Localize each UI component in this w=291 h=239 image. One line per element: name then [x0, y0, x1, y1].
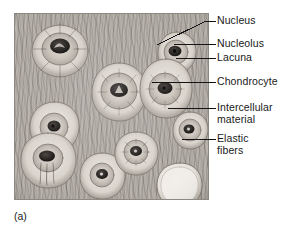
- figure-root: Nucleus Nucleolus Lacuna Chondrocyte Int…: [0, 0, 291, 239]
- micrograph-panel: [14, 13, 209, 200]
- label-nucleolus: Nucleolus: [217, 38, 264, 50]
- figure-caption: (a): [14, 210, 27, 222]
- label-nucleus: Nucleus: [217, 15, 256, 27]
- label-chondrocyte: Chondrocyte: [217, 76, 278, 88]
- label-lacuna: Lacuna: [217, 52, 252, 64]
- cartilage-illustration: [14, 13, 209, 200]
- label-elastic-fibers: Elastic fibers: [217, 133, 249, 156]
- label-intercellular-material: Intercellular material: [217, 102, 273, 125]
